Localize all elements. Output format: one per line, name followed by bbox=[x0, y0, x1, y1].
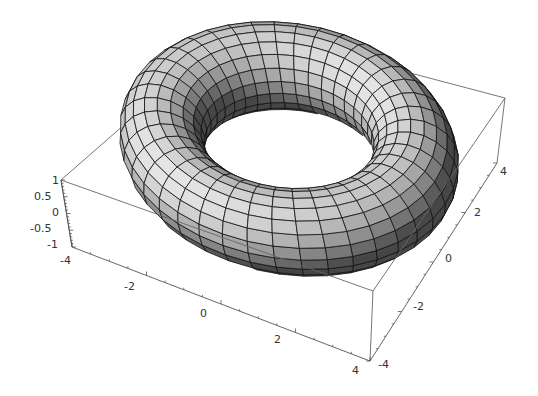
surface-patch bbox=[268, 82, 283, 94]
surface-patch bbox=[157, 111, 173, 125]
surface-patch bbox=[292, 191, 312, 198]
surface-patch bbox=[255, 32, 276, 43]
surface-patch bbox=[283, 93, 298, 103]
surface-patch bbox=[253, 25, 275, 32]
z-tick-label: -0.5 bbox=[30, 222, 51, 235]
surface-patch bbox=[299, 248, 327, 260]
surface-patch bbox=[296, 221, 323, 235]
surface-patch bbox=[278, 54, 294, 69]
y-tick-label: -4 bbox=[378, 358, 389, 371]
torus-surface bbox=[120, 22, 458, 276]
z-tick-labels: 1 0.5 0 -0.5 -1 bbox=[30, 174, 59, 251]
surface-patch bbox=[145, 98, 158, 112]
surface-patch bbox=[262, 54, 280, 68]
surface-patch bbox=[272, 207, 296, 221]
surface-patch bbox=[280, 68, 295, 83]
surface-patch bbox=[272, 219, 298, 235]
x-tick-label: 4 bbox=[352, 364, 359, 377]
surface-patch bbox=[294, 56, 310, 72]
torus-plot: 1 0.5 0 -0.5 -1 -4 -2 0 2 4 -4 -2 0 2 4 bbox=[0, 0, 538, 396]
surface-patch bbox=[293, 198, 316, 209]
y-tick-label: 2 bbox=[474, 206, 481, 219]
surface-patch bbox=[265, 68, 281, 82]
y-tick-label: 0 bbox=[445, 252, 452, 265]
x-tick-label: -4 bbox=[60, 254, 71, 267]
surface-patch bbox=[298, 234, 326, 248]
surface-patch bbox=[270, 93, 285, 102]
surface-patch bbox=[281, 82, 296, 95]
y-tick-label: 4 bbox=[500, 165, 507, 178]
z-tick-label: 1 bbox=[52, 174, 59, 187]
z-tick-label: 0 bbox=[52, 206, 59, 219]
surface-patch bbox=[301, 260, 328, 270]
z-tick-label: 0.5 bbox=[34, 190, 52, 203]
surface-patch bbox=[276, 42, 294, 56]
surface-patch bbox=[319, 218, 346, 235]
x-tick-label: -2 bbox=[124, 280, 135, 293]
surface-patch bbox=[271, 103, 286, 109]
z-tick-label: -1 bbox=[47, 238, 58, 251]
surface-patch bbox=[259, 42, 278, 55]
surface-patch bbox=[398, 119, 411, 132]
surface-patch bbox=[294, 208, 319, 221]
surface-patch bbox=[275, 32, 295, 44]
x-tick-label: 2 bbox=[274, 333, 281, 346]
y-tick-label: -2 bbox=[413, 300, 424, 313]
x-tick-label: 0 bbox=[200, 307, 207, 320]
